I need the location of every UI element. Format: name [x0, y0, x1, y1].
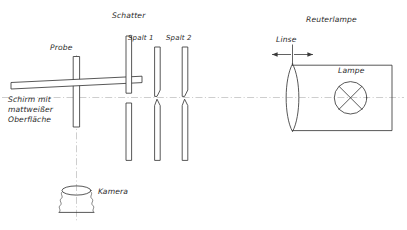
- lamp-label: Lampe: [338, 66, 365, 75]
- arrow-head-left: [272, 52, 278, 56]
- arrow-head-right: [307, 52, 313, 56]
- lens-width-arrow: [272, 45, 313, 66]
- lens-label: Linse: [276, 35, 297, 44]
- screen-label: Schirm mit mattweißer Oberfläche: [8, 95, 54, 124]
- slit-2-label: Spalt 2: [166, 34, 192, 42]
- shutter-label: Schatter: [112, 11, 146, 20]
- screen-label-line-3: Oberfläche: [8, 115, 51, 124]
- camera-label: Kamera: [98, 187, 128, 196]
- shutter-component: [126, 36, 132, 160]
- slit-1-label: Spalt 1: [128, 34, 154, 42]
- probe-component: [73, 57, 79, 128]
- slit-2-component: [182, 47, 188, 160]
- screen-label-line-1: Schirm mit: [8, 95, 52, 104]
- slit-1-component: [155, 47, 161, 160]
- optical-setup-diagram: Probe Schirm mit mattweißer Oberfläche K…: [0, 0, 407, 230]
- diagram-canvas: Probe Schirm mit mattweißer Oberfläche K…: [0, 0, 407, 230]
- lamp-housing-component: [293, 65, 393, 130]
- lamp-assembly-label: Reuterlampe: [306, 15, 357, 24]
- probe-label: Probe: [50, 43, 73, 52]
- screen-label-line-2: mattweißer: [8, 105, 54, 114]
